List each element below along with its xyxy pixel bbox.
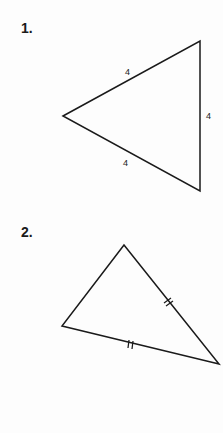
double-tick-mark-bottom-side (128, 340, 133, 349)
problem-2-triangle (0, 0, 223, 433)
isosceles-triangle-shape (62, 245, 219, 364)
